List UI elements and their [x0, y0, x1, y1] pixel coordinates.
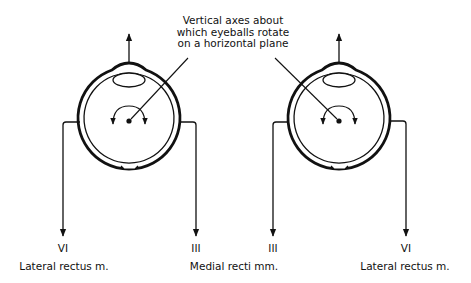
right-eye-optic-disc — [331, 166, 348, 169]
caption-line-1: Vertical axes about — [177, 15, 289, 27]
left-eyeball — [78, 34, 180, 169]
left-medial-nerve-label: III — [191, 243, 200, 254]
left-eye-optic-disc — [121, 166, 138, 169]
right-eye-lens — [323, 73, 355, 87]
right-lateral-nerve-label: VI — [401, 243, 411, 254]
right-eyeball — [288, 34, 390, 169]
rotation-axes-caption: Vertical axes about which eyeballs rotat… — [177, 15, 289, 50]
right-medial-rectus-line — [273, 122, 289, 236]
right-lateral-rectus-line — [391, 121, 406, 236]
left-lateral-rectus-line — [63, 122, 80, 236]
medial-muscle-label: Medial recti mm. — [190, 261, 278, 272]
left-medial-rectus-line — [180, 122, 196, 236]
left-lateral-muscle-label: Lateral rectus m. — [19, 261, 108, 272]
caption-line-3: on a horizontal plane — [177, 38, 289, 50]
left-lateral-nerve-label: VI — [58, 243, 68, 254]
right-eye-axis-dot — [336, 118, 341, 123]
left-eye-lens — [113, 73, 145, 87]
left-eye-axis-dot — [126, 118, 131, 123]
right-medial-nerve-label: III — [268, 243, 277, 254]
right-lateral-muscle-label: Lateral rectus m. — [360, 261, 449, 272]
